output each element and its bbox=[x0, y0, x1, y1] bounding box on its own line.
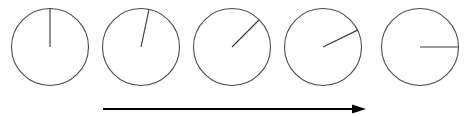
rotation-sequence-diagram bbox=[0, 0, 474, 116]
dial-group-5 bbox=[382, 9, 459, 86]
dial-group-1 bbox=[12, 9, 89, 86]
dial-group-4 bbox=[285, 9, 362, 86]
arrow-group bbox=[103, 105, 366, 114]
dial-group-3 bbox=[194, 9, 271, 86]
arrow-head-icon bbox=[352, 105, 366, 114]
diagram-canvas bbox=[0, 0, 474, 116]
dial-group-2 bbox=[103, 9, 180, 86]
